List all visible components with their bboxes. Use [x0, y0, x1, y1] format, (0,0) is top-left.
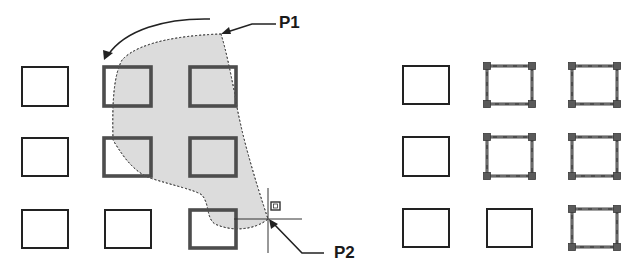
grip-handle[interactable] [614, 206, 621, 213]
grip-handle[interactable] [529, 63, 536, 70]
rectangle-selected[interactable] [484, 63, 536, 108]
grip-handle[interactable] [569, 206, 576, 213]
rectangle-selected[interactable] [569, 63, 621, 108]
p1-leader-line [224, 24, 276, 33]
grip-handle[interactable] [614, 173, 621, 180]
grip-handle[interactable] [569, 63, 576, 70]
rectangle-selected[interactable] [569, 134, 621, 180]
grip-handle[interactable] [614, 244, 621, 251]
rectangle-normal[interactable] [22, 67, 68, 106]
grip-handle[interactable] [614, 101, 621, 108]
grip-handle[interactable] [569, 244, 576, 251]
diagram-canvas: P1 P2 [0, 0, 640, 270]
rectangle-normal[interactable] [22, 138, 68, 176]
p1-arrow-head-icon [221, 27, 231, 34]
cursor-badge-inner [274, 204, 278, 208]
grip-handle[interactable] [484, 173, 491, 180]
rectangle-selected[interactable] [484, 134, 536, 180]
right-panel-selected-with-grips [403, 63, 621, 251]
grip-handle[interactable] [484, 101, 491, 108]
grip-handle[interactable] [484, 63, 491, 70]
grip-handle[interactable] [529, 101, 536, 108]
grip-handle[interactable] [614, 134, 621, 141]
rectangle-normal[interactable] [487, 209, 532, 247]
grip-handle[interactable] [529, 173, 536, 180]
crossing-window-lasso [113, 34, 268, 229]
rectangle-normal[interactable] [403, 66, 449, 104]
rectangle-selected[interactable] [569, 206, 621, 251]
p1-label: P1 [279, 14, 300, 31]
p2-leader-line [272, 222, 324, 253]
rectangle-normal[interactable] [403, 209, 449, 247]
p2-label: P2 [334, 244, 355, 261]
grip-handle[interactable] [569, 134, 576, 141]
grip-handle[interactable] [569, 173, 576, 180]
grip-handle[interactable] [529, 134, 536, 141]
rectangle-normal[interactable] [22, 210, 68, 248]
grip-handle[interactable] [569, 101, 576, 108]
diagram-svg [0, 0, 640, 270]
left-panel-crossing-selection [22, 19, 324, 253]
rectangle-normal[interactable] [105, 210, 151, 248]
right-rect-grid [403, 63, 621, 251]
grip-handle[interactable] [484, 134, 491, 141]
grip-handle[interactable] [614, 63, 621, 70]
rectangle-normal[interactable] [403, 137, 449, 176]
